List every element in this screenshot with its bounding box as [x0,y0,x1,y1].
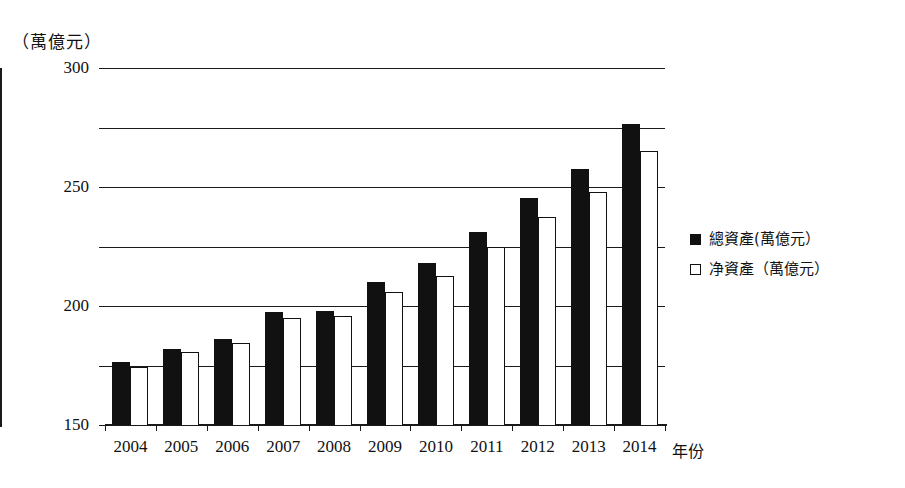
bar-net-assets [436,276,454,425]
bar-group [258,68,309,425]
x-tick-label: 2012 [521,437,555,457]
x-axis-title: 年份 [672,438,704,462]
bar-group [512,68,563,425]
x-tick-label: 2010 [419,437,453,457]
x-tick-mark [461,424,462,431]
bar-net-assets [487,247,505,426]
bars-layer [105,68,665,425]
bar-total-assets [469,232,487,425]
bar-group [156,68,207,425]
bar-group [105,68,156,425]
bar-chart: （萬億元） 050100150200250300 200420052006200… [0,0,905,488]
bar-total-assets [367,282,385,425]
gridline [105,425,665,426]
plot-area: 050100150200250300 [105,68,665,425]
bar-net-assets [385,292,403,425]
bar-total-assets [112,362,130,425]
x-tick-mark [258,424,259,431]
bar-total-assets [622,124,640,425]
x-tick-label: 2014 [623,437,657,457]
bar-group [207,68,258,425]
bar-total-assets [418,263,436,425]
bar-net-assets [232,343,250,425]
bar-group [360,68,411,425]
x-tick-mark [563,424,564,431]
bar-net-assets [640,151,658,425]
x-tick-mark [665,424,666,431]
x-tick-label: 2005 [164,437,198,457]
bar-group [461,68,512,425]
bar-net-assets [334,316,352,425]
x-tick-label: 2008 [317,437,351,457]
x-tick-label: 2004 [113,437,147,457]
bar-net-assets [283,318,301,425]
bar-group [309,68,360,425]
x-tick-mark [207,424,208,431]
y-tick-label: 200 [64,296,90,316]
bar-group [563,68,614,425]
x-tick-mark [410,424,411,431]
x-tick-label: 2013 [572,437,606,457]
bar-net-assets [181,352,199,425]
bar-total-assets [520,198,538,425]
legend-label-net-assets: 净資產（萬億元） [709,254,829,284]
x-tick-label: 2007 [266,437,300,457]
bar-total-assets [163,349,181,425]
bar-net-assets [538,217,556,425]
bar-group [614,68,665,425]
y-tick-label: 150 [64,415,90,435]
filled-square-marker-icon [690,234,701,245]
legend-item-total-assets: 總資產(萬億元） [690,224,829,254]
x-tick-mark [360,424,361,431]
bar-total-assets [571,169,589,425]
y-tick-label: 250 [64,177,90,197]
x-tick-mark [309,424,310,431]
legend: 總資產(萬億元） 净資產（萬億元） [690,224,829,284]
y-tick-label: 300 [64,58,90,78]
bar-group [410,68,461,425]
x-tick-mark [156,424,157,431]
legend-label-total-assets: 總資產(萬億元） [709,224,820,254]
x-tick-mark [512,424,513,431]
x-tick-mark [105,424,106,431]
hollow-square-marker-icon [690,264,701,275]
legend-item-net-assets: 净資產（萬億元） [690,254,829,284]
bar-net-assets [589,192,607,425]
bar-total-assets [316,311,334,425]
x-tick-label: 2009 [368,437,402,457]
x-tick-label: 2011 [470,437,503,457]
y-axis-line [0,68,2,427]
x-tick-mark [614,424,615,431]
y-axis-unit-caption: （萬億元） [12,28,102,53]
bar-total-assets [214,339,232,425]
x-tick-label: 2006 [215,437,249,457]
bar-net-assets [130,367,148,425]
bar-total-assets [265,312,283,425]
